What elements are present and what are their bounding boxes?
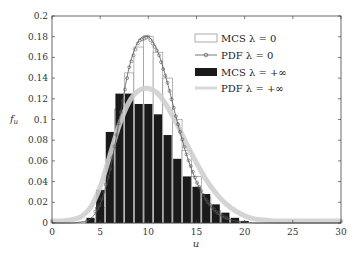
bar <box>164 135 172 223</box>
y-tick-label: 0.16 <box>28 52 48 62</box>
bar <box>144 104 152 223</box>
x-tick-label: 0 <box>49 227 55 237</box>
x-tick-label: 10 <box>143 227 155 237</box>
x-tick-label: 15 <box>191 227 203 237</box>
bar <box>183 176 191 223</box>
x-tick-label: 20 <box>239 227 251 237</box>
bar <box>202 194 210 223</box>
bar <box>192 187 200 223</box>
legend-swatch-white-bar <box>195 34 217 42</box>
y-tick-label: 0.06 <box>28 156 48 166</box>
y-tick-label: 0.2 <box>34 11 48 21</box>
x-axis-label: u <box>193 238 199 249</box>
y-tick-label: 0.18 <box>28 32 48 42</box>
legend-label: PDF λ = 0 <box>221 50 273 61</box>
bar <box>135 104 143 223</box>
y-tick-label: 0.12 <box>28 94 48 104</box>
x-tick-label: 5 <box>97 227 103 237</box>
legend-label: PDF λ = +∞ <box>221 83 284 94</box>
x-tick-label: 30 <box>335 227 347 237</box>
legend-swatch-black-bar <box>195 68 217 76</box>
chart: 051015202530 00.020.040.060.080.10.120.1… <box>0 0 351 258</box>
y-tick-label: 0.08 <box>28 135 48 145</box>
y-tick-label: 0.1 <box>34 115 48 125</box>
legend-label: MCS λ = 0 <box>221 33 276 44</box>
y-axis-label: fu <box>9 113 19 126</box>
legend: MCS λ = 0PDF λ = 0MCS λ = +∞PDF λ = +∞ <box>193 31 293 95</box>
legend-label: MCS λ = +∞ <box>221 67 287 78</box>
bar <box>154 114 162 223</box>
y-tick-label: 0.14 <box>28 73 48 83</box>
x-tick-label: 25 <box>287 227 299 237</box>
y-tick-label: 0 <box>42 218 48 228</box>
bar <box>173 159 181 223</box>
y-tick-label: 0.04 <box>28 177 48 187</box>
y-tick-label: 0.02 <box>28 197 48 207</box>
